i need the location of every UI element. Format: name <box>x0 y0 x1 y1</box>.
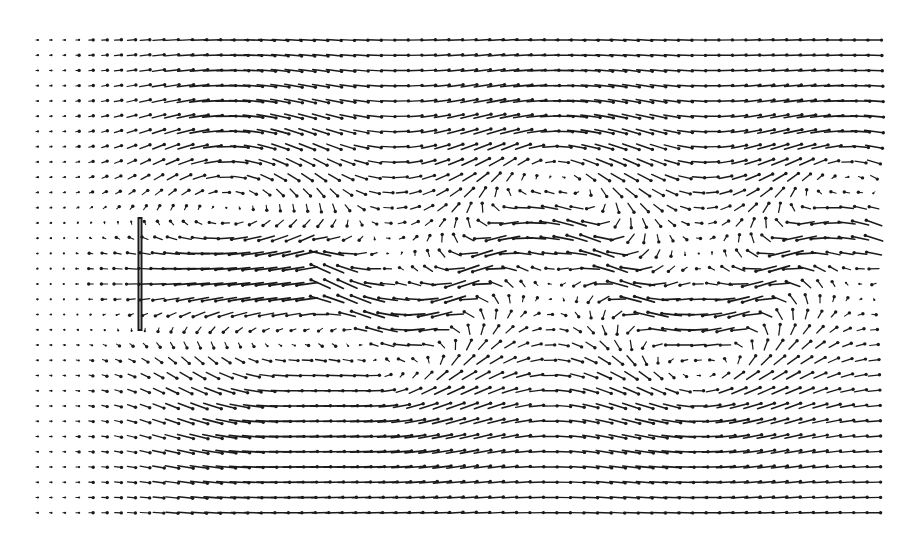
vector-head-dot <box>115 236 118 239</box>
vector-head-dot <box>420 144 423 147</box>
vector-head-dot <box>795 339 798 342</box>
vector-head-dot <box>825 250 828 253</box>
vector-head-dot <box>63 268 65 270</box>
vector-head-dot <box>665 407 668 410</box>
velocity-vector <box>220 373 233 378</box>
velocity-vector <box>570 389 584 392</box>
vector-head-dot <box>664 116 667 119</box>
velocity-vector <box>599 296 609 302</box>
vector-head-dot <box>809 237 812 240</box>
vector-head-dot <box>502 433 505 436</box>
velocity-vector <box>461 253 478 255</box>
vector-head-dot <box>581 220 584 223</box>
velocity-vector <box>462 512 477 513</box>
vector-head-dot <box>423 418 426 421</box>
vector-head-dot <box>699 237 702 240</box>
vector-head-dot <box>230 175 233 178</box>
vector-head-dot <box>785 221 788 224</box>
vector-head-dot <box>169 330 172 333</box>
vector-head-dot <box>162 158 165 161</box>
velocity-vector <box>368 161 380 163</box>
vector-head-dot <box>131 205 134 208</box>
vector-head-dot <box>879 450 882 453</box>
vector-head-dot <box>37 252 39 254</box>
vector-head-dot <box>422 342 425 345</box>
velocity-vector <box>517 374 530 378</box>
velocity-vector <box>354 40 368 41</box>
velocity-vector <box>813 513 827 514</box>
vector-head-dot <box>489 98 492 101</box>
vector-head-dot <box>146 189 149 192</box>
velocity-vector <box>314 237 327 240</box>
vector-head-dot <box>512 237 515 240</box>
vector-head-dot <box>154 314 157 317</box>
vector-head-dot <box>857 191 860 194</box>
vector-head-dot <box>232 392 235 395</box>
velocity-vector <box>744 314 761 316</box>
vector-head-dot <box>855 267 858 270</box>
vector-head-dot <box>660 377 663 380</box>
vector-head-dot <box>284 179 287 182</box>
vector-head-dot <box>88 298 90 300</box>
vector-head-dot <box>128 314 131 317</box>
vector-head-dot <box>648 283 651 286</box>
velocity-vector <box>475 40 490 41</box>
vector-head-dot <box>448 128 451 131</box>
vector-head-dot <box>241 192 244 195</box>
velocity-vector <box>692 345 706 346</box>
vector-head-dot <box>120 451 123 454</box>
vector-head-dot <box>689 298 692 301</box>
vector-head-dot <box>120 38 123 41</box>
velocity-vector <box>165 466 178 468</box>
vector-head-dot <box>255 360 258 363</box>
vector-head-dot <box>190 158 193 161</box>
vector-head-dot <box>676 178 679 181</box>
velocity-vector <box>409 388 421 393</box>
vector-head-dot <box>76 252 78 254</box>
velocity-vector <box>313 375 327 376</box>
vector-head-dot <box>813 264 816 267</box>
vector-head-dot <box>50 115 52 117</box>
vector-head-dot <box>551 313 554 316</box>
vector-head-dot <box>178 98 181 101</box>
vector-head-dot <box>77 54 80 57</box>
vector-head-dot <box>75 283 77 285</box>
velocity-vector <box>799 497 813 498</box>
vector-head-dot <box>433 174 436 177</box>
vector-head-dot <box>50 435 52 437</box>
vector-head-dot <box>624 422 627 425</box>
vector-head-dot <box>353 101 356 104</box>
vector-head-dot <box>282 194 285 197</box>
vector-head-dot <box>268 284 271 287</box>
velocity-vector <box>436 175 448 180</box>
vector-head-dot <box>434 328 437 331</box>
velocity-vector <box>758 497 773 498</box>
vector-head-dot <box>380 282 383 285</box>
vector-head-dot <box>756 188 759 191</box>
vector-head-dot <box>579 249 582 252</box>
velocity-vector <box>719 389 732 394</box>
vector-head-dot <box>633 281 636 284</box>
vector-head-dot <box>64 390 66 392</box>
vector-head-dot <box>404 206 407 209</box>
vector-head-dot <box>273 147 276 150</box>
vector-head-dot <box>163 143 166 146</box>
vector-head-dot <box>763 323 766 326</box>
vector-head-dot <box>234 222 237 225</box>
vector-head-dot <box>701 314 704 317</box>
vector-head-dot <box>37 313 39 315</box>
vector-head-dot <box>834 310 837 313</box>
vector-head-dot <box>847 176 849 178</box>
vector-head-dot <box>638 132 641 135</box>
velocity-vector <box>179 160 192 165</box>
vector-head-dot <box>295 194 298 197</box>
vector-head-dot <box>858 283 860 285</box>
velocity-vector <box>814 160 826 165</box>
vector-head-dot <box>661 298 664 301</box>
vector-head-dot <box>89 237 91 239</box>
vector-head-dot <box>151 251 154 254</box>
velocity-vector <box>692 162 705 163</box>
vector-head-dot <box>688 329 691 332</box>
vector-head-dot <box>579 233 582 236</box>
velocity-vector <box>584 373 597 378</box>
